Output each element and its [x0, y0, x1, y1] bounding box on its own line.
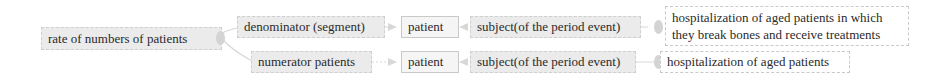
- relation-label-2: subject(of the period event): [477, 54, 620, 70]
- patient-label-2: patient: [408, 54, 443, 70]
- relation-label-1: subject(of the period event): [477, 19, 620, 35]
- patient-label-1: patient: [408, 19, 443, 35]
- root-label: rate of numbers of patients: [48, 31, 187, 47]
- patient-node-1: patient: [401, 16, 459, 38]
- event-line-1b: they break bones and receive treatments: [672, 26, 880, 43]
- denominator-label: denominator (segment): [244, 19, 365, 35]
- root-node: rate of numbers of patients: [41, 27, 222, 50]
- relation-node-1: subject(of the period event): [470, 16, 641, 38]
- patient-node-2: patient: [401, 51, 459, 73]
- event-handle-1[interactable]: [654, 20, 663, 34]
- numerator-label: numerator patients: [258, 54, 355, 70]
- numerator-node: numerator patients: [251, 51, 372, 73]
- event-node-2: hospitalization of aged patients: [660, 51, 850, 73]
- event-node-1: hospitalization of aged patients in whic…: [665, 6, 909, 46]
- denominator-node: denominator (segment): [237, 16, 385, 38]
- event-line-1a: hospitalization of aged patients in whic…: [672, 9, 882, 26]
- relation-node-2: subject(of the period event): [470, 51, 636, 73]
- root-collapse-handle[interactable]: [216, 31, 225, 45]
- event-label-2: hospitalization of aged patients: [667, 54, 829, 70]
